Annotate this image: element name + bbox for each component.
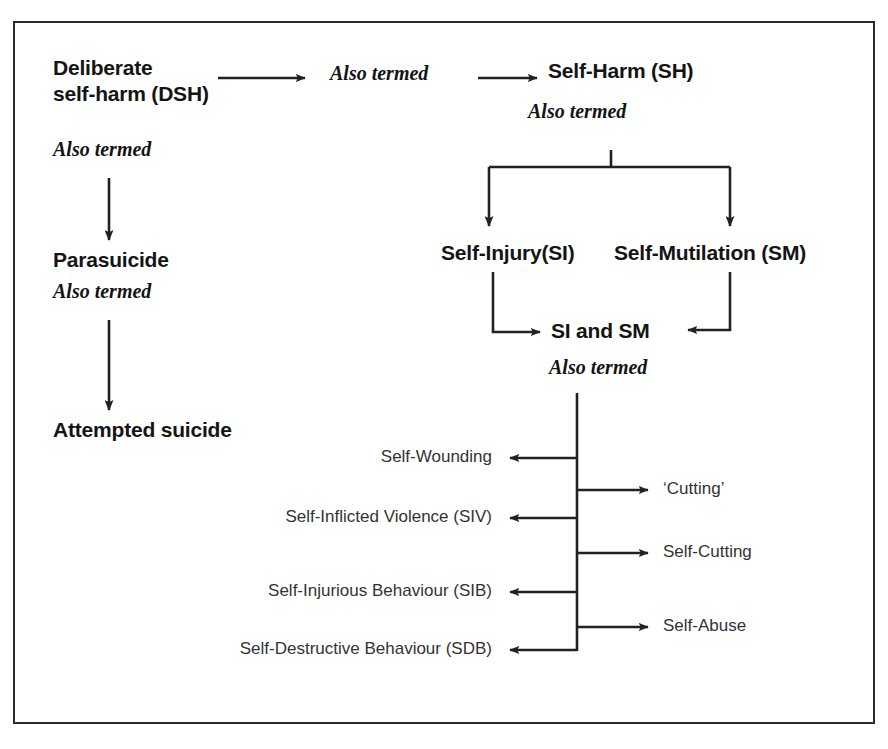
term-self-destructive-behaviour: Self-Destructive Behaviour (SDB) [0,639,492,659]
node-parasuicide: Parasuicide [53,247,169,273]
term-self-wounding: Self-Wounding [0,447,492,467]
node-si-and-sm: SI and SM [551,318,650,344]
connector-label-si-and-sm-to-terms: Also termed [549,356,647,379]
node-self-harm: Self-Harm (SH) [548,58,693,84]
connector-label-dsh-to-parasuicide: Also termed [53,138,151,161]
figure-canvas: Deliberate self-harm (DSH) Also termed S… [0,0,888,749]
node-attempted-suicide: Attempted suicide [53,417,232,443]
term-self-inflicted-violence: Self-Inflicted Violence (SIV) [0,507,492,527]
connector-label-dsh-to-self-harm: Also termed [330,62,428,85]
term-cutting: ‘Cutting’ [663,479,724,499]
term-self-injurious-behaviour: Self-Injurious Behaviour (SIB) [0,581,492,601]
node-deliberate-self-harm: Deliberate self-harm (DSH) [53,55,209,106]
connector-label-self-harm-to-branch: Also termed [528,100,626,123]
node-self-injury: Self-Injury(SI) [441,240,575,266]
node-self-mutilation: Self-Mutilation (SM) [614,240,806,266]
term-self-abuse: Self-Abuse [663,616,746,636]
connector-label-parasuicide-to-attempted-suicide: Also termed [53,280,151,303]
term-self-cutting: Self-Cutting [663,542,752,562]
